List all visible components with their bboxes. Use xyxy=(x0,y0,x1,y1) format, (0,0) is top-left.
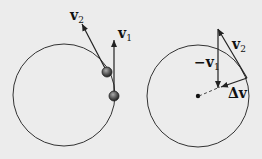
delta-v-label: Δv xyxy=(228,86,247,100)
v2-label-left: v2 xyxy=(70,8,84,25)
velocity-diagram xyxy=(0,0,262,159)
v1-label-left: v1 xyxy=(118,26,132,43)
left-circular-path xyxy=(13,44,115,146)
ball-position-2 xyxy=(102,67,112,77)
v2-label-right: v2 xyxy=(232,37,246,54)
ball-position-1 xyxy=(109,91,119,101)
dashed-center-line xyxy=(199,87,220,96)
left-panel xyxy=(13,24,119,146)
neg-v1-label: −v1 xyxy=(194,55,220,72)
v2-vector-arrow xyxy=(82,24,107,72)
